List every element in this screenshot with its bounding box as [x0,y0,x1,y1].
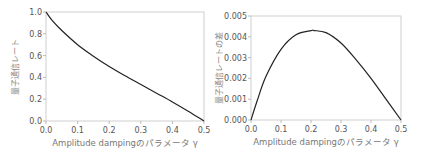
y-tick-label: 0.0 [29,117,42,126]
x-tick-label: 0.5 [395,125,408,134]
chart-panel-1: 0.00.10.20.30.40.50.00.20.40.60.81.0Ampl… [10,8,210,148]
x-tick-label: 0.5 [198,126,211,135]
y-tick-label: 0.004 [224,33,247,42]
y-tick-label: 0.005 [224,12,247,21]
y-tick-label: 0.8 [29,30,42,39]
x-tick-label: 0.1 [275,125,288,134]
x-tick-label: 0.3 [134,126,147,135]
y-axis-label: 量子通信レートの差 [214,32,224,104]
x-tick-label: 0.2 [305,125,318,134]
x-axis-label: Amplitude dampingのパラメータ γ [253,137,398,147]
y-tick-label: 0.001 [224,95,247,104]
x-tick-label: 0.0 [40,126,53,135]
data-line [251,30,401,120]
chart-figure: 0.00.10.20.30.40.50.00.20.40.60.81.0Ampl… [0,0,422,151]
y-tick-label: 0.000 [224,116,247,125]
y-tick-label: 0.4 [29,73,42,82]
y-tick-label: 0.002 [224,74,247,83]
y-axis-label: 量子通信レート [10,39,20,95]
x-tick-label: 0.2 [103,126,116,135]
axes-frame [46,12,204,121]
x-axis-label: Amplitude dampingのパラメータ γ [52,138,197,148]
y-tick-label: 0.6 [29,52,42,61]
x-tick-label: 0.3 [335,125,348,134]
x-tick-label: 0.1 [71,126,84,135]
x-tick-label: 0.0 [245,125,258,134]
axes-frame [251,16,401,120]
y-tick-label: 1.0 [29,8,42,17]
x-tick-label: 0.4 [166,126,179,135]
y-tick-label: 0.003 [224,54,247,63]
x-tick-label: 0.4 [365,125,378,134]
data-line [46,12,204,121]
y-tick-label: 0.2 [29,95,42,104]
chart-panel-2: 0.00.10.20.30.40.50.0000.0010.0020.0030.… [214,12,407,147]
